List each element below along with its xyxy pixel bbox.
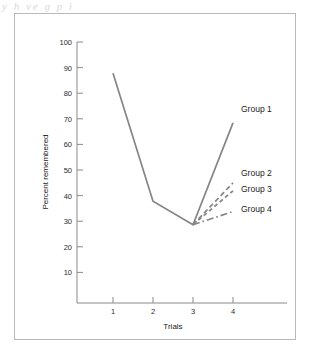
x-axis-ticks bbox=[113, 297, 233, 303]
y-tick-label: 20 bbox=[64, 243, 72, 252]
x-tick-label: 1 bbox=[111, 307, 115, 316]
line-chart: 100 90 80 70 60 50 40 30 20 10 1 2 3 4 T… bbox=[15, 14, 295, 339]
series-label-group-2: Group 2 bbox=[241, 168, 272, 178]
y-tick-label: 50 bbox=[64, 166, 72, 175]
figure-frame: 100 90 80 70 60 50 40 30 20 10 1 2 3 4 T… bbox=[14, 13, 296, 340]
y-tick-label: 80 bbox=[64, 89, 72, 98]
y-tick-label: 30 bbox=[64, 217, 72, 226]
top-text-remnant: y h ve g p i bbox=[0, 0, 315, 12]
series-line-group-1 bbox=[113, 73, 233, 224]
y-tick-label: 60 bbox=[64, 140, 72, 149]
y-tick-label: 10 bbox=[64, 268, 72, 277]
y-tick-label: 70 bbox=[64, 115, 72, 124]
x-axis-title: Trials bbox=[163, 322, 182, 331]
series-label-group-3: Group 3 bbox=[241, 184, 272, 194]
x-axis-tick-labels: 1 2 3 4 bbox=[111, 307, 235, 316]
y-axis-ticks bbox=[77, 42, 83, 272]
y-tick-label: 90 bbox=[64, 64, 72, 73]
x-tick-label: 2 bbox=[151, 307, 155, 316]
x-tick-label: 3 bbox=[191, 307, 195, 316]
x-tick-label: 4 bbox=[231, 307, 235, 316]
y-axis-tick-labels: 100 90 80 70 60 50 40 30 20 10 bbox=[59, 38, 72, 277]
y-axis-title: Percent remembered bbox=[41, 134, 50, 209]
y-tick-label: 100 bbox=[59, 38, 72, 47]
series-label-group-1: Group 1 bbox=[241, 104, 272, 114]
series-label-group-4: Group 4 bbox=[241, 204, 272, 214]
y-tick-label: 40 bbox=[64, 192, 72, 201]
